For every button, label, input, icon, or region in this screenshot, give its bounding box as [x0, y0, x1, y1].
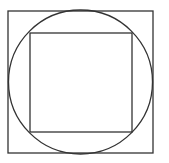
inner-square [30, 33, 132, 132]
geometry-diagram [0, 0, 169, 163]
